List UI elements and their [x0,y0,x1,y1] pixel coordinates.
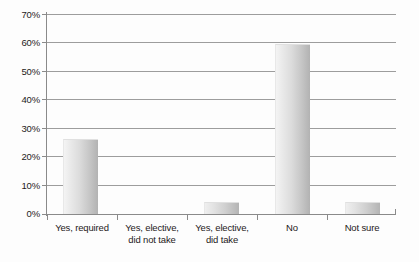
x-tick-3 [257,215,258,220]
x-axis-label-yes-required-line1: Yes, required [42,222,122,234]
bar-chart: 70% 60% 50% 40% 30% 20% 10% 0% Yes, req [0,0,419,262]
bar-yes-required [63,139,98,214]
x-axis-label-yes-elective-did-take-line1: Yes, elective, [182,222,262,234]
x-axis-label-yes-elective-did-not-take: Yes, elective, did not take [112,222,192,245]
y-axis-label-70: 70% [0,9,40,20]
gridline-60 [47,42,396,43]
y-axis-label-30: 30% [0,123,40,134]
x-axis-label-yes-elective-did-not-take-line2: did not take [112,234,192,246]
x-axis-label-not-sure: Not sure [322,222,402,234]
gridline-40 [47,99,396,100]
y-axis-label-50: 50% [0,66,40,77]
y-axis-label-60: 60% [0,37,40,48]
y-axis-label-40: 40% [0,94,40,105]
gridline-20 [47,156,396,157]
x-axis-label-yes-elective-did-take-line2: did take [182,234,262,246]
x-axis-label-not-sure-line1: Not sure [322,222,402,234]
x-axis-label-no: No [252,222,332,234]
x-axis-label-no-line1: No [252,222,332,234]
plot-area [47,14,396,214]
gridline-50 [47,71,396,72]
y-axis-label-20: 20% [0,151,40,162]
bar-yes-elective-did-take [204,202,239,214]
bar-no [275,44,310,214]
gridline-10 [47,185,396,186]
x-axis-label-yes-required: Yes, required [42,222,122,234]
gridline-30 [47,128,396,129]
y-axis-label-0: 0% [0,208,40,219]
x-tick-2 [187,215,188,220]
x-tick-0 [47,215,48,220]
bar-not-sure [345,202,380,214]
x-axis-label-yes-elective-did-not-take-line1: Yes, elective, [112,222,192,234]
x-tick-4 [327,215,328,220]
x-axis-label-yes-elective-did-take: Yes, elective, did take [182,222,262,245]
x-axis-line [46,214,396,215]
x-tick-1 [117,215,118,220]
y-axis-label-10: 10% [0,180,40,191]
gridline-70 [47,14,396,15]
